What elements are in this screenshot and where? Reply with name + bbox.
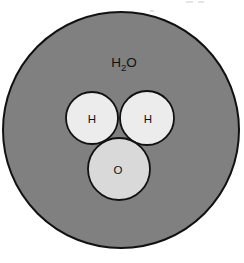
formula-tail: O bbox=[126, 55, 137, 70]
atom-label-hydrogen-right: H bbox=[144, 113, 152, 125]
water-molecule-figure: H2O H H O bbox=[0, 0, 244, 263]
atom-label-oxygen: O bbox=[114, 164, 123, 176]
atom-label-hydrogen-left: H bbox=[88, 113, 96, 125]
water-molecule-shell bbox=[3, 12, 239, 248]
molecule-canvas: H2O H H O bbox=[0, 0, 244, 263]
formula-base: H bbox=[111, 55, 121, 70]
